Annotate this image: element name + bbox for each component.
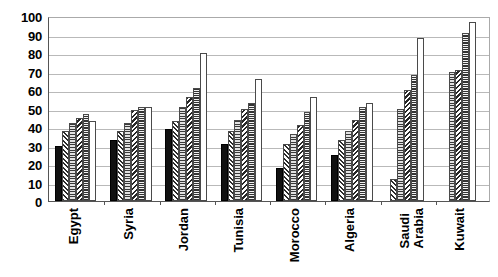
bar (417, 38, 424, 201)
x-axis-category-label: Jordan (177, 208, 191, 251)
bar (193, 88, 200, 201)
bar (62, 131, 69, 201)
x-axis-category-label: Syria (122, 208, 136, 240)
bar (241, 109, 248, 202)
bar (76, 118, 83, 201)
bar (297, 125, 304, 201)
bar-group (215, 18, 270, 201)
bar (248, 103, 255, 201)
bar (131, 110, 138, 201)
bar (411, 75, 418, 201)
bar-group (270, 18, 325, 201)
x-axis-category-label: Algeria (343, 208, 357, 252)
y-axis-tick-label: 100 (21, 11, 42, 24)
bar (221, 144, 228, 201)
bar-group (104, 18, 159, 201)
bar (352, 120, 359, 201)
bar (145, 107, 152, 201)
bar (186, 97, 193, 201)
x-axis-tick (104, 201, 105, 205)
bar-group (160, 18, 215, 201)
bar (338, 140, 345, 201)
bar (200, 53, 207, 201)
y-axis-tick-label: 30 (28, 140, 42, 153)
bar (310, 97, 317, 201)
x-axis-category-label: Saudi Arabia (398, 208, 425, 248)
plot-area (48, 17, 490, 202)
x-axis-category-label: Tunisia (232, 208, 246, 253)
bar (234, 120, 241, 201)
y-axis-tick-labels: 1009080706050403020100 (0, 0, 46, 277)
bar (55, 146, 62, 202)
y-axis-tick-label: 0 (35, 196, 42, 209)
bar (462, 33, 469, 201)
bar (345, 131, 352, 201)
bar (138, 107, 145, 201)
bar (469, 22, 476, 201)
bar (404, 90, 411, 201)
bar-chart: 1009080706050403020100 EgyptSyriaJordanT… (0, 0, 498, 277)
bar (69, 123, 76, 201)
bar (228, 131, 235, 201)
bar (117, 131, 124, 201)
bar-group (381, 18, 436, 201)
y-axis-tick-label: 60 (28, 85, 42, 98)
y-axis-tick-label: 70 (28, 66, 42, 79)
bar-group (49, 18, 104, 201)
bar (359, 107, 366, 201)
y-axis-tick-label: 80 (28, 48, 42, 61)
y-axis-tick-label: 50 (28, 103, 42, 116)
bar (83, 114, 90, 201)
x-axis-tick (270, 201, 271, 205)
bar (290, 134, 297, 201)
bar (276, 168, 283, 201)
x-axis-tick (325, 201, 326, 205)
bar (455, 70, 462, 201)
x-axis-tick (381, 201, 382, 205)
bar-group (436, 18, 491, 201)
x-axis-tick (215, 201, 216, 205)
bar (449, 72, 456, 202)
bar (397, 109, 404, 202)
y-axis-tick-label: 10 (28, 177, 42, 190)
x-axis-tick (436, 201, 437, 205)
bar (331, 155, 338, 201)
bar (255, 79, 262, 201)
x-axis-category-label: Kuwait (453, 208, 467, 251)
x-axis-category-label: Morocco (288, 208, 302, 262)
bar (124, 123, 131, 201)
x-axis-category-labels: EgyptSyriaJordanTunisiaMoroccoAlgeriaSau… (48, 206, 490, 277)
bar (390, 179, 397, 201)
bar (165, 129, 172, 201)
bar (366, 103, 373, 201)
bar (179, 107, 186, 201)
y-axis-tick-label: 40 (28, 122, 42, 135)
bar-group (325, 18, 380, 201)
bar (110, 140, 117, 201)
bar (304, 112, 311, 201)
bar (89, 121, 96, 201)
bar-groups (49, 18, 489, 201)
y-axis-tick-label: 90 (28, 29, 42, 42)
bar (283, 144, 290, 201)
x-axis-tick (160, 201, 161, 205)
x-axis-category-label: Egypt (67, 208, 81, 244)
bar (172, 121, 179, 201)
y-axis-tick-label: 20 (28, 159, 42, 172)
